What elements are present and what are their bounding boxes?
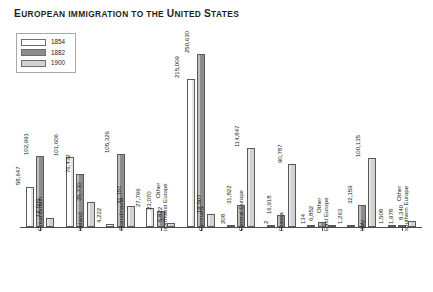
bar-groups: 58,647102,99112,509101,60676,43235,7304,… [20,10,422,227]
bar-slot: 90,787 [288,10,296,227]
bar-1900[interactable]: 100,135 [368,158,376,227]
plot-area: 58,647102,99112,509101,60676,43235,7304,… [20,10,422,228]
bar-group: 101,60676,43235,730 [60,10,100,227]
category-4: Germany [181,231,221,289]
bar-slot: 18,507 [207,10,215,227]
category-label: Other northwest Europe [154,183,168,231]
category-label: Scandinavia [117,198,124,231]
category-label: Russia [278,212,285,231]
bar-value-label: 23,070 [145,191,151,210]
bar-value-label: 134 [300,214,306,224]
category-7: Other East Europe [301,231,341,289]
category-3: Other northwest Europe [141,231,181,289]
bar-slot: 35,730 [87,10,95,227]
bar-1854[interactable]: 215,009 [187,79,195,227]
bar-value-label: 100,135 [355,135,361,157]
bar-slot: 101,606 [66,10,74,227]
bar-group: 216,91890,787 [261,10,301,227]
bar-slot: 58,647 [26,10,34,227]
category-label: Germany [197,206,204,231]
bar-value-label: 102,991 [23,133,29,155]
bar-slot: 100,135 [368,10,376,227]
bar-value-label: 114,847 [235,125,241,147]
bar-value-label: 27,796 [135,188,141,207]
category-labels: Great BritainIrelandScandinaviaOther nor… [20,231,422,289]
bar-value-label: 1,508 [378,209,384,224]
bar-value-label: 58,647 [14,167,20,186]
bar-value-label: 2 [263,221,269,224]
bar-slot: 6,852 [318,10,326,227]
bar-1900[interactable]: 35,730 [87,202,95,227]
bar-value-label: 208 [220,214,226,224]
bar-slot [328,10,336,227]
bar-group: 215,009250,63018,507 [181,10,221,227]
bar-slot: 12,509 [46,10,54,227]
bar-value-label: 6,852 [308,206,314,221]
category-5: Central Europe [221,231,261,289]
bar-1900[interactable]: 90,787 [288,164,296,227]
category-9: Other southern Europe [382,231,422,289]
category-8: Italy [342,231,382,289]
category-label: Great Britain [36,197,43,231]
bar-slot: 8,340 [408,10,416,227]
bar-slot: 4,222 [106,10,114,227]
bar-1900[interactable]: 31,151 [127,206,135,228]
chart-container: European immigration to the United State… [0,0,433,292]
bar-value-label: 90,787 [276,145,282,164]
category-label: Italy [358,220,365,231]
bar-slot: 114,847 [247,10,255,227]
bar-slot: 5,822 [167,10,175,227]
bar-group: 1346,852 [301,10,341,227]
bar-value-label: 101,606 [53,134,59,156]
bar-1900[interactable]: 12,509 [46,218,54,227]
category-label: Central Europe [238,190,245,231]
bar-slot: 32,159 [358,10,366,227]
category-label: Ireland [77,212,84,231]
bar-value-label: 4,222 [96,208,102,223]
bar-slot: 102,991 [36,10,44,227]
bar-slot: 16,918 [277,10,285,227]
category-label: Other East Europe [314,197,328,231]
bar-group: 58,647102,99112,509 [20,10,60,227]
category-0: Great Britain [20,231,60,289]
category-2: Scandinavia [100,231,140,289]
bar-1854[interactable]: 58,647 [26,187,34,227]
category-label: Other southern Europe [395,186,409,231]
bar-value-label: 105,326 [103,131,109,153]
bar-value-label: 76,432 [65,155,71,174]
bar-value-label: 16,918 [266,196,272,215]
bar-1900[interactable]: 114,847 [247,148,255,227]
bar-group: 1,26332,159100,135 [342,10,382,227]
bar-slot: 134 [307,10,315,227]
bar-value-label: 1,263 [338,209,344,224]
category-1: Ireland [60,231,100,289]
bar-value-label: 35,730 [75,183,81,202]
bar-value-label: 31,822 [226,185,232,204]
bar-value-label: 215,009 [173,56,179,78]
bar-value-label: 32,159 [346,185,352,204]
bar-value-label: 250,630 [184,31,190,53]
bar-1900[interactable]: 18,507 [207,214,215,227]
bar-value-label: 1,978 [388,209,394,224]
category-6: Russia [261,231,301,289]
